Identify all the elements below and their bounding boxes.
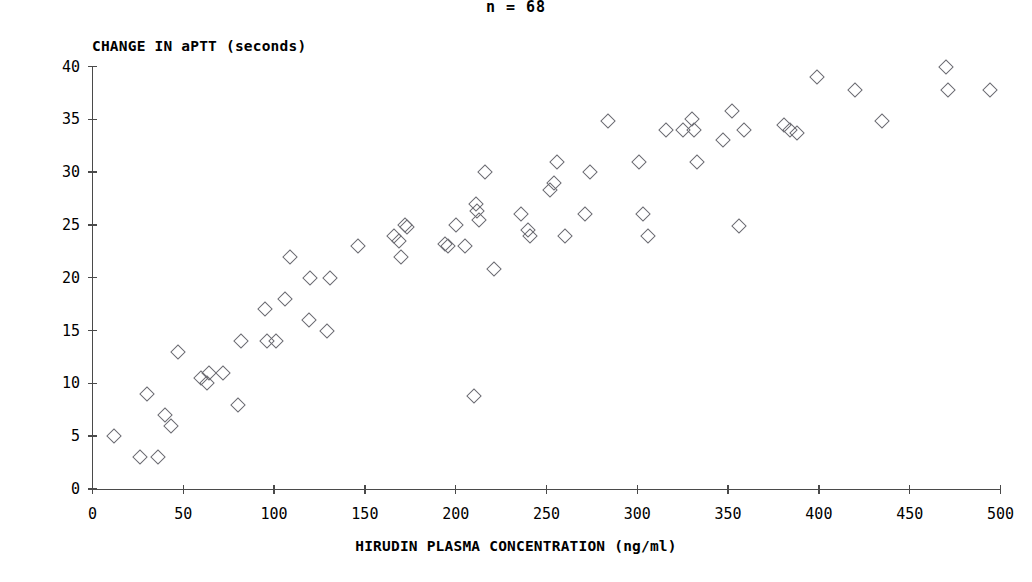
data-point-marker xyxy=(277,291,293,307)
data-point-marker xyxy=(399,219,415,235)
x-axis-title: HIRUDIN PLASMA CONCENTRATION (ng/ml) xyxy=(0,538,1032,554)
y-tick-mark xyxy=(88,119,97,120)
data-point-marker xyxy=(550,154,566,170)
data-point-marker xyxy=(457,238,473,254)
data-point-marker xyxy=(582,164,598,180)
y-tick-mark xyxy=(88,224,97,225)
data-point-marker xyxy=(441,238,457,254)
x-tick-label: 250 xyxy=(517,505,577,523)
data-point-marker xyxy=(386,228,402,244)
data-point-marker xyxy=(724,103,740,119)
data-point-marker xyxy=(393,249,409,265)
data-point-marker xyxy=(789,125,805,141)
data-point-marker xyxy=(257,302,273,318)
y-tick-mark xyxy=(88,435,97,436)
y-tick-label: 20 xyxy=(30,269,80,287)
x-tick-label: 150 xyxy=(335,505,395,523)
data-point-marker xyxy=(472,212,488,228)
x-tick-mark xyxy=(273,485,274,494)
x-tick-mark xyxy=(455,485,456,494)
y-tick-mark xyxy=(88,383,97,384)
data-point-marker xyxy=(199,376,215,392)
data-point-marker xyxy=(392,233,408,249)
y-tick-label: 15 xyxy=(30,322,80,340)
data-point-marker xyxy=(215,365,231,381)
data-point-marker xyxy=(546,175,562,191)
data-point-marker xyxy=(470,203,486,219)
x-tick-label: 50 xyxy=(153,505,213,523)
data-point-marker xyxy=(875,114,891,130)
data-point-marker xyxy=(163,418,179,434)
data-point-marker xyxy=(486,262,502,278)
x-tick-label: 0 xyxy=(63,505,123,523)
y-tick-label: 10 xyxy=(30,374,80,392)
x-tick-label: 450 xyxy=(880,505,940,523)
x-tick-label: 100 xyxy=(244,505,304,523)
data-point-marker xyxy=(659,122,675,138)
x-tick-mark xyxy=(909,485,910,494)
data-point-marker xyxy=(675,122,691,138)
x-tick-label: 350 xyxy=(698,505,758,523)
data-point-marker xyxy=(201,365,217,381)
data-point-marker xyxy=(157,407,173,423)
y-tick-label: 40 xyxy=(30,58,80,76)
data-point-marker xyxy=(982,82,998,98)
data-point-marker xyxy=(303,270,319,286)
data-point-marker xyxy=(640,228,656,244)
data-point-marker xyxy=(139,386,155,402)
y-tick-label: 30 xyxy=(30,163,80,181)
x-tick-label: 400 xyxy=(789,505,849,523)
data-point-marker xyxy=(468,196,484,212)
data-point-marker xyxy=(234,333,250,349)
y-tick-mark xyxy=(88,330,97,331)
chart-title: n = 68 xyxy=(0,0,1032,16)
data-point-marker xyxy=(194,370,210,386)
data-point-marker xyxy=(170,344,186,360)
scatter-plot-figure: n = 68 CHANGE IN aPTT (seconds) 05101520… xyxy=(0,0,1032,582)
y-tick-label: 25 xyxy=(30,216,80,234)
data-point-marker xyxy=(437,236,453,252)
data-point-marker xyxy=(132,450,148,466)
y-tick-mark xyxy=(88,66,97,67)
data-point-marker xyxy=(522,228,538,244)
data-point-marker xyxy=(731,218,747,234)
data-point-marker xyxy=(323,270,339,286)
data-point-marker xyxy=(689,154,705,170)
data-point-marker xyxy=(319,323,335,339)
x-tick-mark xyxy=(183,485,184,494)
data-point-marker xyxy=(686,122,702,138)
data-point-marker xyxy=(448,217,464,233)
y-axis-title: CHANGE IN aPTT (seconds) xyxy=(92,38,306,54)
data-point-marker xyxy=(847,82,863,98)
data-point-marker xyxy=(283,249,299,265)
y-tick-label: 5 xyxy=(30,427,80,445)
x-tick-mark xyxy=(1000,485,1001,494)
x-tick-mark xyxy=(92,485,93,494)
x-tick-mark xyxy=(546,485,547,494)
data-point-marker xyxy=(513,207,529,223)
x-tick-mark xyxy=(727,485,728,494)
data-point-marker xyxy=(600,114,616,130)
y-tick-label: 0 xyxy=(30,480,80,498)
data-point-marker xyxy=(684,112,700,128)
data-point-marker xyxy=(521,222,537,238)
x-tick-mark xyxy=(637,485,638,494)
data-point-marker xyxy=(557,228,573,244)
y-tick-label: 35 xyxy=(30,110,80,128)
x-tick-label: 500 xyxy=(971,505,1031,523)
data-point-marker xyxy=(477,164,493,180)
data-point-marker xyxy=(397,217,413,233)
data-point-marker xyxy=(715,133,731,149)
data-point-marker xyxy=(107,428,123,444)
data-point-marker xyxy=(782,122,798,138)
data-point-marker xyxy=(737,122,753,138)
data-point-marker xyxy=(777,117,793,133)
x-tick-label: 200 xyxy=(426,505,486,523)
data-point-marker xyxy=(938,59,954,75)
data-point-marker xyxy=(635,207,651,223)
data-point-marker xyxy=(230,397,246,413)
plot-data-area xyxy=(0,0,1032,582)
data-point-marker xyxy=(542,182,558,198)
data-point-marker xyxy=(350,238,366,254)
y-tick-mark xyxy=(88,277,97,278)
